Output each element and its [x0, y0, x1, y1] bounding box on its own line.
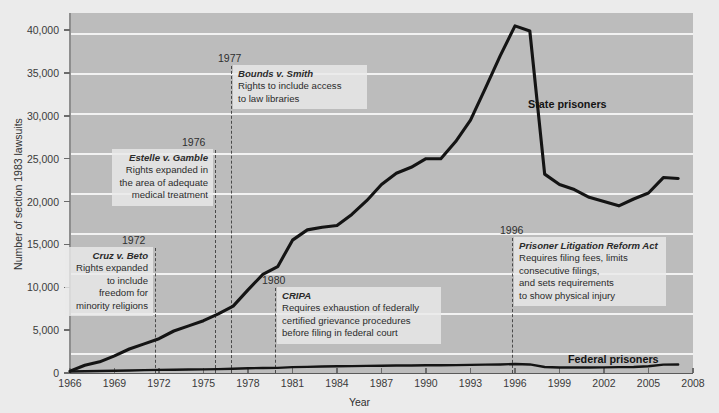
event-case-name: Bounds v. Smith: [238, 68, 362, 80]
event-description-line: to include: [70, 275, 148, 287]
event-year-cruz-v-beto: 1972: [122, 234, 145, 246]
x-axis-tick: [425, 368, 426, 373]
x-axis-tick-label: 1990: [406, 377, 446, 389]
event-case-name: CRIPA: [282, 290, 436, 302]
x-axis-tick-label: 1978: [228, 377, 268, 389]
y-axis-tick: [64, 244, 70, 245]
x-axis-tick: [559, 368, 560, 373]
event-marker-line-estelle-v-gamble: [215, 150, 216, 373]
gridline: [70, 33, 693, 35]
event-description-line: before filing in federal court: [282, 327, 436, 339]
gridline: [70, 233, 693, 235]
event-description-line: certified grievance procedures: [282, 315, 436, 327]
y-axis-tick-label: 30,000: [0, 110, 59, 122]
event-year-estelle-v-gamble: 1976: [182, 136, 205, 148]
y-axis-tick-label: 15,000: [0, 238, 59, 250]
y-axis-tick-label: 20,000: [0, 196, 59, 208]
y-axis-tick: [64, 115, 70, 116]
y-axis-line: [69, 13, 70, 373]
x-axis-tick: [514, 368, 515, 373]
event-description-line: medical treatment: [117, 189, 208, 201]
x-axis-tick-label: 2005: [629, 377, 669, 389]
event-case-name: Estelle v. Gamble: [117, 152, 208, 164]
y-axis-tick-label: 5,000: [0, 324, 59, 336]
x-axis-tick-label: 1969: [95, 377, 135, 389]
event-description-line: Requires exhaustion of federally: [282, 302, 436, 314]
y-axis-tick: [64, 29, 70, 30]
x-axis-tick: [381, 368, 382, 373]
gridline: [70, 73, 693, 75]
event-annotation-estelle-v-gamble: Estelle v. GambleRights expanded inthe a…: [112, 149, 213, 206]
event-description-line: Rights to include access: [238, 80, 362, 92]
y-axis-tick: [64, 72, 70, 73]
event-description-line: to show physical injury: [519, 290, 661, 302]
event-description-line: Requires filing fees, limits: [519, 252, 661, 264]
x-axis-tick: [292, 368, 293, 373]
x-axis-tick-label: 1966: [50, 377, 90, 389]
event-annotation-cripa: CRIPARequires exhaustion of federallycer…: [277, 287, 441, 344]
event-description-line: minority religions: [70, 300, 148, 312]
x-axis-tick: [69, 368, 70, 373]
x-axis-tick-label: 1996: [495, 377, 535, 389]
x-axis-tick-label: 2002: [584, 377, 624, 389]
event-case-name: Cruz v. Beto: [70, 250, 148, 262]
x-axis-tick: [692, 368, 693, 373]
y-axis-tick-label: 40,000: [0, 24, 59, 36]
x-axis-tick: [114, 368, 115, 373]
event-description-line: consecutive filings,: [519, 265, 661, 277]
event-annotation-bounds-v-smith: Bounds v. SmithRights to include accesst…: [233, 65, 367, 109]
x-axis-tick-label: 1981: [273, 377, 313, 389]
y-axis-title: Number of section 1983 lawsuits: [12, 34, 24, 354]
event-description-line: and sets requirements: [519, 277, 661, 289]
series-label-state-prisoners: State prisoners: [528, 98, 607, 110]
event-annotation-prisoner-litigation-reform-act: Prisoner Litigation Reform ActRequires f…: [514, 237, 666, 306]
x-axis-tick-label: 1975: [184, 377, 224, 389]
x-axis-tick: [648, 368, 649, 373]
event-description-line: Rights expanded: [70, 262, 148, 274]
event-year-bounds-v-smith: 1977: [218, 52, 241, 64]
event-case-name: Prisoner Litigation Reform Act: [519, 240, 661, 252]
y-axis-tick-label: 10,000: [0, 281, 59, 293]
x-axis-tick: [336, 368, 337, 373]
y-axis-tick-label: 35,000: [0, 67, 59, 79]
y-axis-tick: [64, 329, 70, 330]
event-year-prisoner-litigation-reform-act: 1996: [500, 224, 523, 236]
event-marker-line-prisoner-litigation-reform-act: [512, 238, 513, 373]
x-axis-title: Year: [0, 396, 719, 408]
x-axis-tick-label: 1972: [139, 377, 179, 389]
x-axis-tick: [470, 368, 471, 373]
series-label-federal-prisoners: Federal prisoners: [568, 353, 659, 365]
event-marker-line-cripa: [275, 288, 276, 373]
x-axis-tick: [158, 368, 159, 373]
y-axis-tick: [64, 158, 70, 159]
x-axis-tick-label: 1984: [317, 377, 357, 389]
x-axis-tick-label: 2008: [673, 377, 713, 389]
event-marker-line-bounds-v-smith: [231, 66, 232, 373]
x-axis-tick-label: 1999: [540, 377, 580, 389]
event-year-cripa: 1980: [262, 274, 285, 286]
gridline: [70, 113, 693, 115]
y-axis-tick: [64, 201, 70, 202]
event-description-line: Rights expanded in: [117, 164, 208, 176]
chart-figure: 05,00010,00015,00020,00025,00030,00035,0…: [0, 0, 719, 413]
event-description-line: freedom for: [70, 287, 148, 299]
x-axis-tick: [247, 368, 248, 373]
event-annotation-cruz-v-beto: Cruz v. BetoRights expandedto includefre…: [65, 247, 153, 316]
x-axis-tick-label: 1987: [362, 377, 402, 389]
x-axis-tick: [203, 368, 204, 373]
x-axis-tick: [603, 368, 604, 373]
event-description-line: to law libraries: [238, 93, 362, 105]
x-axis-tick-label: 1993: [451, 377, 491, 389]
event-marker-line-cruz-v-beto: [155, 248, 156, 373]
y-axis-tick-label: 25,000: [0, 153, 59, 165]
event-description-line: the area of adequate: [117, 177, 208, 189]
